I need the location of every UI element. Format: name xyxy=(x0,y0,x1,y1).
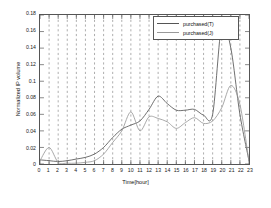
legend-label-purchased-t: purchased(T) xyxy=(183,21,214,27)
legend-item-purchased-j: purchased(J) xyxy=(157,28,235,37)
y-tick-label: 0.18 xyxy=(2,11,36,16)
chart-figure: 00.020.040.060.080.10.120.140.160.18 Nor… xyxy=(0,0,271,208)
legend-swatch-purchased-t xyxy=(157,23,179,25)
y-axis-title: Normalized IP volume xyxy=(15,29,21,149)
series-line-purchased-t xyxy=(40,22,249,161)
y-tick-label: 0 xyxy=(2,162,36,167)
legend-label-purchased-j: purchased(J) xyxy=(183,30,213,36)
x-tick-label: 23 xyxy=(243,168,257,173)
data-series-group xyxy=(40,22,249,164)
legend-swatch-purchased-j xyxy=(157,32,179,34)
legend-item-purchased-t: purchased(T) xyxy=(157,19,235,28)
x-axis-title: Time[hour] xyxy=(0,179,271,185)
series-line-purchased-j xyxy=(40,85,249,163)
x-axis-tick-labels: 01234567891011121314151617181920212223 xyxy=(0,168,271,178)
chart-legend: purchased(T) purchased(J) xyxy=(153,16,239,40)
